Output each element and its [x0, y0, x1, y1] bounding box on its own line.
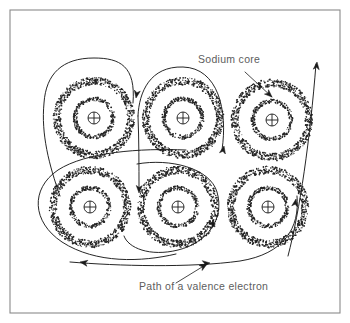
sodium-metal-figure: Sodium corePath of a valence electron — [0, 0, 350, 323]
figure-frame — [10, 10, 340, 313]
sodium-core-annotation-label: Sodium core — [198, 53, 260, 65]
figure-canvas: Sodium corePath of a valence electron — [0, 0, 350, 323]
valence-path-annotation-label: Path of a valence electron — [139, 280, 268, 292]
